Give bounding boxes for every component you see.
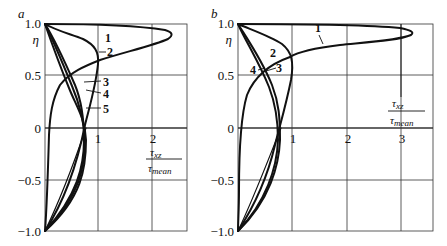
y-tick-a-5: −1.0 [17, 224, 41, 239]
curve-label-b-4: 4 [250, 63, 256, 77]
panel-b: b 1.0 η 0.5 0 −0.5 −1.0 1 2 3 τxz τmean [210, 6, 433, 239]
y-axis-label-b: η [226, 32, 232, 47]
y-tick-a-3: 0 [35, 121, 42, 136]
y-tick-a-4: −0.5 [17, 173, 41, 188]
curve-label-b-2: 2 [270, 46, 276, 60]
curve-label-a-1: 1 [105, 31, 111, 45]
y-tick-a-2: 0.5 [25, 68, 41, 83]
svg-text:τxz: τxz [150, 146, 162, 160]
y-tick-a-1: 1.0 [25, 16, 41, 31]
y-tick-b-1: 1.0 [218, 16, 234, 31]
y-axis-label-a: η [33, 32, 39, 47]
y-tick-b-2: 0.5 [218, 68, 234, 83]
x-tick-b-2: 2 [345, 131, 352, 146]
figure: a 1.0 η 0.5 0 −0.5 −1.0 1 2 τxz τmean [0, 0, 447, 246]
curve-label-a-4: 4 [103, 87, 109, 101]
x-tick-a-2: 2 [150, 131, 157, 146]
x-tick-b-3: 3 [399, 131, 406, 146]
y-tick-b-5: −1.0 [210, 224, 234, 239]
curve-label-a-5: 5 [103, 102, 109, 116]
y-tick-b-3: 0 [228, 121, 235, 136]
x-tick-a-1: 1 [95, 131, 102, 146]
x-tick-b-1: 1 [290, 131, 297, 146]
svg-text:τxz: τxz [392, 97, 404, 111]
curve-labels-a: 1 2 3 4 5 [84, 31, 113, 116]
x-axis-label-a: τxz τmean [146, 146, 182, 176]
svg-text:τmean: τmean [148, 162, 172, 176]
curve-label-b-3: 3 [276, 61, 282, 75]
svg-text:τmean: τmean [390, 114, 414, 128]
curve-label-b-1: 1 [315, 21, 321, 35]
curve-label-a-2: 2 [107, 45, 113, 59]
y-tick-b-4: −0.5 [210, 173, 234, 188]
panel-a: a 1.0 η 0.5 0 −0.5 −1.0 1 2 τxz τmean [17, 6, 187, 239]
